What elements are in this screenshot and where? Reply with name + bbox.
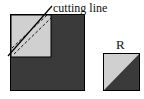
light-corner-square bbox=[11, 15, 51, 57]
cutting-line-label: cutting line bbox=[53, 1, 107, 15]
cutting-diagram: cutting line R bbox=[0, 0, 144, 99]
result-square bbox=[104, 54, 140, 91]
result-label: R bbox=[116, 37, 125, 52]
